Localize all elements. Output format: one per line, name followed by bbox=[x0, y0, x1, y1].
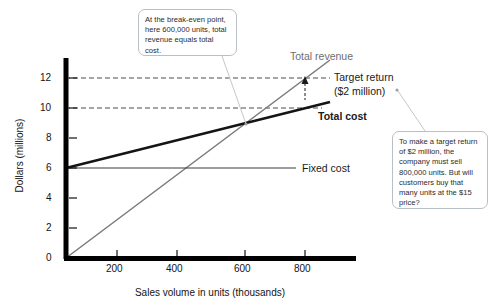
x-tick-label-800: 800 bbox=[294, 264, 311, 274]
y-tick-label-12: 12 bbox=[40, 73, 51, 83]
y-axis-title: Dollars (millions) bbox=[14, 96, 25, 216]
x-tick-label-200: 200 bbox=[106, 264, 123, 274]
x-tick-label-600: 600 bbox=[234, 264, 251, 274]
y-tick-label-6: 6 bbox=[46, 163, 52, 173]
y-tick-label-10: 10 bbox=[40, 103, 51, 113]
series-label-target-return-line1: Target return bbox=[334, 71, 394, 83]
y-tick-label-4: 4 bbox=[46, 193, 52, 203]
callout-breakeven: At the break-even point, here 600,000 un… bbox=[138, 9, 237, 56]
series-label-total-revenue: Total revenue bbox=[290, 50, 353, 62]
chart-figure: 12 10 8 6 4 2 0 200 400 600 800 Dollars … bbox=[0, 0, 491, 307]
series-label-target-return-line2: ($2 million) bbox=[334, 85, 385, 97]
x-tick-label-400: 400 bbox=[166, 264, 183, 274]
y-tick-label-8: 8 bbox=[46, 133, 52, 143]
x-tick-marks bbox=[117, 250, 305, 256]
y-tick-label-0: 0 bbox=[46, 253, 52, 263]
leader-line-target bbox=[398, 91, 425, 131]
callout-target: To make a target return of $2 million, t… bbox=[392, 131, 488, 209]
leader-line-breakeven bbox=[222, 56, 246, 124]
series-label-fixed-cost: Fixed cost bbox=[302, 162, 350, 174]
x-axis-title: Sales volume in units (thousands) bbox=[100, 287, 320, 298]
y-tick-marks bbox=[69, 78, 77, 228]
y-tick-label-2: 2 bbox=[46, 223, 52, 233]
leader-dot-target bbox=[395, 88, 398, 91]
series-label-total-cost: Total cost bbox=[318, 110, 367, 122]
leader-dot-breakeven bbox=[244, 122, 247, 125]
